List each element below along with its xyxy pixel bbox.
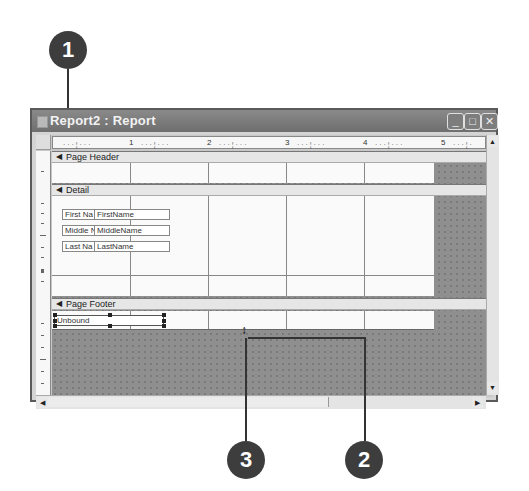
callout-1: 1 xyxy=(49,31,87,69)
selection-handle[interactable] xyxy=(162,313,166,317)
horizontal-ruler[interactable]: · · · ¦ · · · 1 · · · ¦ · · · 2 · · · ¦ … xyxy=(52,136,486,149)
selection-handle[interactable] xyxy=(53,324,57,328)
section-arrow-icon: ◀ xyxy=(56,152,62,161)
page-header-label: Page Header xyxy=(66,152,119,162)
minimize-button[interactable]: _ xyxy=(447,113,464,130)
selection-handle[interactable] xyxy=(162,319,166,323)
callout-3: 3 xyxy=(227,441,265,479)
lastname-label[interactable]: Last Na xyxy=(62,241,95,252)
resize-cursor-icon: ↕ xyxy=(241,323,247,337)
page-footer-label: Page Footer xyxy=(66,299,116,309)
callout-2-bracket xyxy=(248,337,365,339)
maximize-button[interactable]: □ xyxy=(464,113,481,130)
firstname-label[interactable]: First Na xyxy=(62,209,95,220)
horizontal-scrollbar[interactable]: ◀ ▶ xyxy=(36,395,486,409)
section-arrow-icon: ◀ xyxy=(56,185,62,194)
callout-2: 2 xyxy=(345,441,383,479)
scroll-up-button[interactable]: ▲ xyxy=(487,136,498,147)
firstname-textbox[interactable]: FirstName xyxy=(94,209,170,220)
scroll-left-button[interactable]: ◀ xyxy=(37,397,48,408)
detail-label: Detail xyxy=(66,185,89,195)
design-surface: ◀ Page Header ◀ Detail First Na xyxy=(52,151,486,395)
close-button[interactable]: ✕ xyxy=(481,113,498,130)
detail-section[interactable]: First Na FirstName Middle N MiddleName L… xyxy=(52,196,434,296)
ruler-label-3: 3 xyxy=(285,138,289,147)
title-bar[interactable]: Report2 : Report _ □ ✕ xyxy=(32,110,496,132)
detail-bar[interactable]: ◀ Detail xyxy=(52,184,486,196)
ruler-label-4: 4 xyxy=(363,138,367,147)
selection-handle[interactable] xyxy=(53,313,57,317)
callout-3-line xyxy=(245,338,247,441)
client-area: · · · ¦ · · · 1 · · · ¦ · · · 2 · · · ¦ … xyxy=(36,135,493,397)
scroll-right-button[interactable]: ▶ xyxy=(472,397,483,408)
selection-handle[interactable] xyxy=(53,319,57,323)
middlename-textbox[interactable]: MiddleName xyxy=(94,225,170,236)
page-header-section[interactable] xyxy=(52,163,434,183)
window-title: Report2 : Report xyxy=(50,113,156,128)
ruler-label-2: 2 xyxy=(207,138,211,147)
selection-handle[interactable] xyxy=(162,324,166,328)
vertical-scrollbar[interactable]: ▲ ▼ xyxy=(486,135,499,395)
vertical-ruler[interactable] xyxy=(36,151,51,395)
selection-handle[interactable] xyxy=(108,313,112,317)
middlename-label[interactable]: Middle N xyxy=(62,225,95,236)
page-header-bar[interactable]: ◀ Page Header xyxy=(52,151,486,163)
report-icon xyxy=(37,116,48,128)
scroll-down-button[interactable]: ▼ xyxy=(487,382,498,393)
callout-2-line xyxy=(364,337,366,441)
select-report-box[interactable] xyxy=(36,135,51,150)
page-footer-bar[interactable]: ◀ Page Footer xyxy=(52,298,486,310)
report-design-window: Report2 : Report _ □ ✕ · · · ¦ · · · 1 ·… xyxy=(30,108,498,402)
selection-handle[interactable] xyxy=(108,324,112,328)
horizontal-scroll-thumb[interactable] xyxy=(48,397,329,407)
ruler-label-1: 1 xyxy=(129,138,133,147)
lastname-textbox[interactable]: LastName xyxy=(94,241,170,252)
ruler-label-5: 5 xyxy=(441,138,445,147)
section-arrow-icon: ◀ xyxy=(56,299,62,308)
